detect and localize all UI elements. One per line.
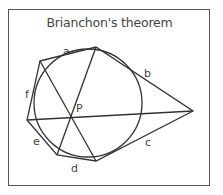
- label-side-d: d: [71, 162, 78, 175]
- label-side-f: f: [25, 88, 30, 101]
- label-side-a: a: [63, 45, 70, 58]
- label-side-b: b: [144, 67, 151, 80]
- label-side-c: c: [145, 136, 151, 149]
- inscribed-circle: [34, 49, 142, 157]
- brianchon-diagram: a b c d e f P: [0, 0, 223, 195]
- label-point-p: P: [76, 102, 83, 115]
- diagonal-c-f: [27, 111, 193, 120]
- label-side-e: e: [33, 135, 40, 148]
- diagonal-a-d: [40, 61, 96, 161]
